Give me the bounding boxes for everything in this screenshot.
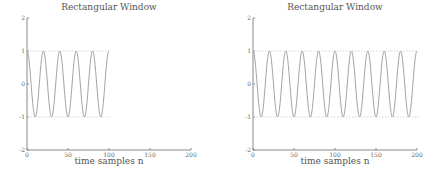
y-tick-label: 2	[247, 14, 251, 21]
y-tick-label: 0	[247, 80, 251, 87]
x-tick-label: 0	[25, 151, 29, 158]
y-tick-label: -1	[19, 113, 25, 120]
plot-right: Rectangular Window time samples n 050100…	[245, 2, 423, 166]
chart-title: Rectangular Window	[287, 2, 383, 12]
x-tick-label: 150	[370, 151, 382, 158]
x-tick-label: 100	[103, 151, 115, 158]
x-tick-label: 50	[290, 151, 298, 158]
chart-title: Rectangular Window	[61, 2, 157, 12]
x-tick-label: 100	[329, 151, 341, 158]
y-tick-label: 1	[21, 47, 25, 54]
plot-left: Rectangular Window time samples n 050100…	[19, 2, 197, 166]
signal-line	[27, 51, 109, 117]
x-tick-label: 50	[64, 151, 72, 158]
y-tick-label: -2	[19, 146, 25, 153]
figure: Rectangular Window time samples n 050100…	[0, 0, 438, 177]
x-tick-label: 0	[251, 151, 255, 158]
y-tick-label: 0	[21, 80, 25, 87]
y-tick-label: 2	[21, 14, 25, 21]
y-tick-label: -2	[245, 146, 251, 153]
y-tick-label: -1	[245, 113, 251, 120]
x-tick-label: 150	[144, 151, 156, 158]
signal-line	[253, 51, 417, 117]
x-tick-label: 200	[411, 151, 423, 158]
y-tick-label: 1	[247, 47, 251, 54]
x-tick-label: 200	[185, 151, 197, 158]
